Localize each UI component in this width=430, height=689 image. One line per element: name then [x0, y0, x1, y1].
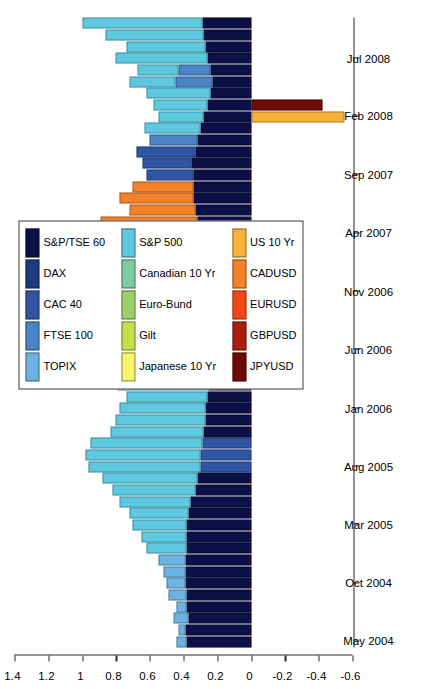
bar-segment [210, 64, 251, 75]
legend-label: Canadian 10 Yr [139, 259, 216, 288]
bar-segment [119, 192, 193, 203]
value-tick [318, 655, 319, 661]
bar-segment [186, 601, 250, 612]
bar-segment [188, 612, 251, 623]
legend-inner: S&P/TSE 60DAXCAC 40FTSE 100TOPIXS&P 500C… [25, 228, 296, 381]
bar-segment [193, 192, 250, 203]
bar-segment [119, 402, 205, 413]
bar-segment [205, 414, 251, 425]
bar-segment [141, 531, 187, 542]
value-tick-label: 0.2 [209, 663, 221, 689]
legend-label: DAX [43, 259, 105, 288]
time-tick-label: Mar 2005 [362, 495, 374, 555]
legend-column-bonds: S&P 500Canadian 10 YrEuro-BundGiltJapane… [121, 228, 216, 381]
legend-label: GBPUSD [250, 321, 296, 350]
bar-segment [251, 111, 344, 122]
bar-segment [185, 624, 251, 635]
bar-segment [195, 484, 251, 495]
bar-segment [195, 146, 251, 157]
value-tick-label: 1.2 [40, 663, 52, 689]
bar-segment [129, 76, 175, 87]
time-tick-label: Apr 2007 [362, 203, 374, 263]
bar-segment [186, 542, 250, 553]
legend-swatch [25, 321, 39, 350]
bar-segment [137, 64, 178, 75]
bar-segment [185, 577, 251, 588]
bar-segment [251, 99, 322, 110]
bar-segment [136, 146, 195, 157]
bar-segment [115, 52, 206, 63]
bar-segment [193, 181, 250, 192]
bar-segment [163, 566, 185, 577]
time-tick-label: Oct 2004 [362, 553, 374, 613]
bar-segment [115, 414, 205, 425]
legend-swatches [121, 228, 135, 381]
value-tick-label: -0.6 [344, 663, 356, 689]
bar-segment [202, 17, 251, 28]
bar-segment [102, 472, 197, 483]
time-tick-label: Nov 2006 [362, 261, 374, 321]
bar-segment [129, 507, 188, 518]
time-tick-label: Jul 2008 [362, 28, 374, 88]
value-tick-label: -0.4 [310, 663, 322, 689]
value-tick [149, 655, 150, 661]
legend-swatch [121, 321, 135, 350]
bar-segment [186, 636, 250, 647]
bar-segment [200, 122, 251, 133]
time-tick-label: Feb 2008 [362, 86, 374, 146]
legend-labels: S&P 500Canadian 10 YrEuro-BundGiltJapane… [139, 228, 216, 381]
legend-label: CAC 40 [43, 290, 105, 319]
bar-segment [205, 402, 251, 413]
bar-segment [119, 496, 190, 507]
value-tick [251, 655, 252, 661]
bar-segment [126, 41, 205, 52]
legend-swatch [121, 228, 135, 257]
legend-label: S&P/TSE 60 [43, 228, 105, 257]
bar-segment [202, 437, 251, 448]
bar-segment [146, 87, 210, 98]
bar-segment [212, 76, 251, 87]
bar-segment [146, 542, 187, 553]
bar-segment [132, 181, 193, 192]
legend-swatch [232, 352, 246, 381]
bar-segment [82, 17, 202, 28]
bar-segment [193, 169, 250, 180]
bar-segment [142, 157, 191, 168]
legend-swatch [121, 290, 135, 319]
bar-segment [191, 157, 250, 168]
bar-segment [207, 391, 251, 402]
bar-segment [178, 64, 210, 75]
bar-segment [205, 41, 251, 52]
value-tick-label: 0.6 [141, 663, 153, 689]
bar-segment [173, 612, 188, 623]
bar-segment [203, 426, 250, 437]
time-tick-label: Jun 2006 [362, 320, 374, 380]
legend-label: EURUSD [250, 290, 296, 319]
bar-segment [207, 99, 251, 110]
bar-segment [129, 204, 195, 215]
legend-column-rates-and-fx: US 10 YrCADUSDEURUSDGBPUSDJPYUSD [232, 228, 296, 381]
legend-swatch [121, 352, 135, 381]
legend-labels: US 10 YrCADUSDEURUSDGBPUSDJPYUSD [250, 228, 296, 381]
bar-segment [210, 87, 251, 98]
legend-swatch [232, 259, 246, 288]
value-tick [82, 655, 83, 661]
bar-segment [176, 601, 186, 612]
bar-segment [105, 29, 203, 40]
bar-segment [149, 134, 196, 145]
bar-segment [203, 111, 250, 122]
legend-swatch [25, 259, 39, 288]
value-tick [48, 655, 49, 661]
bar-segment [176, 636, 186, 647]
value-tick [352, 655, 353, 661]
bar-segment [190, 496, 251, 507]
chart-legend: S&P/TSE 60DAXCAC 40FTSE 100TOPIXS&P 500C… [18, 220, 303, 389]
bar-segment [178, 624, 185, 635]
chart-canvas: 1.41.210.80.60.40.20-0.2-0.4-0.6 May 200… [0, 0, 430, 689]
bar-segment [185, 554, 251, 565]
legend-label: JPYUSD [250, 352, 296, 381]
bar-segment [132, 519, 186, 530]
legend-swatches [25, 228, 39, 381]
legend-column-equity-indices: S&P/TSE 60DAXCAC 40FTSE 100TOPIX [25, 228, 105, 381]
value-tick [217, 655, 218, 661]
